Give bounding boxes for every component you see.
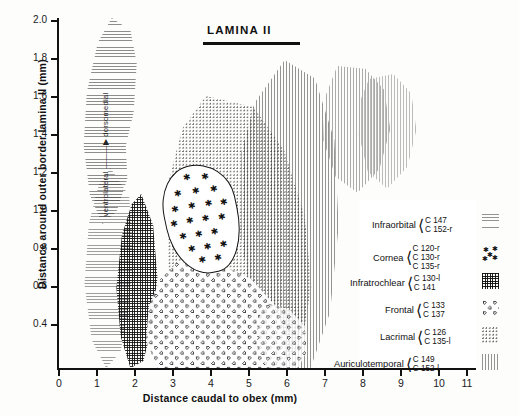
x-tick-label: 11 bbox=[455, 377, 479, 389]
brace-icon: ⟨ bbox=[418, 221, 424, 230]
legend-item-infraorbital[interactable]: Infraorbital ⟨ C 147 C 152-r bbox=[372, 216, 452, 234]
legend-codes: C 120-r C 130-r C 135-r bbox=[413, 244, 440, 272]
x-tick bbox=[286, 370, 288, 376]
star-marker: ✱ bbox=[482, 256, 488, 263]
x-tick-label: 6 bbox=[275, 377, 299, 389]
star-marker: ✱ bbox=[209, 184, 218, 194]
vlines-swatch bbox=[482, 354, 499, 370]
star-marker: ✱ bbox=[187, 244, 196, 254]
x-tick bbox=[172, 370, 174, 376]
legend-label: Infratrochlear bbox=[350, 278, 405, 288]
star-marker: ✱ bbox=[201, 214, 210, 224]
crosshatch-swatch bbox=[482, 273, 499, 289]
hlines-swatch bbox=[482, 214, 499, 230]
x-tick-label: 3 bbox=[161, 377, 185, 389]
y-tick bbox=[51, 324, 57, 326]
brace-icon: ⟨ bbox=[406, 360, 412, 369]
stars-swatch-grid: ✱ ✱ ✱ ✱ ✱ bbox=[482, 246, 499, 262]
star-marker: ✱ bbox=[171, 205, 180, 215]
x-tick bbox=[248, 370, 250, 376]
star-marker: ✱ bbox=[170, 219, 179, 229]
star-marker: ✱ bbox=[182, 173, 191, 183]
star-marker: ✱ bbox=[219, 239, 228, 249]
star-marker: ✱ bbox=[219, 197, 228, 207]
y-tick bbox=[51, 58, 57, 60]
x-tick bbox=[96, 370, 98, 376]
y-tick bbox=[51, 210, 57, 212]
lamina-ii-figure: Distance around outer border lamina II (… bbox=[0, 0, 519, 416]
x-tick-label: 2 bbox=[123, 377, 147, 389]
y-tick-label: 1.0 bbox=[17, 204, 47, 215]
x-tick bbox=[466, 370, 468, 376]
y-tick-label: 1.4 bbox=[17, 128, 47, 139]
brace-icon: ⟨ bbox=[406, 253, 412, 262]
legend-label: Lacrimal bbox=[380, 332, 415, 342]
legend-codes: C 147 C 152-r bbox=[425, 216, 452, 234]
legend-label: Infraorbital bbox=[372, 220, 416, 230]
brace-icon: ⟨ bbox=[407, 279, 413, 288]
legend-item-lacrimal[interactable]: Lacrimal ⟨ C 126 C 135-l bbox=[380, 328, 451, 346]
stars-swatch: ✱ ✱ ✱ ✱ ✱ bbox=[482, 246, 499, 262]
legend-codes: C 126 C 135-l bbox=[424, 328, 450, 346]
legend-label: Frontal bbox=[385, 305, 414, 315]
y-tick bbox=[51, 172, 57, 174]
x-tick-label: 9 bbox=[389, 377, 413, 389]
y-tick bbox=[51, 134, 57, 136]
x-tick-label: 7 bbox=[313, 377, 337, 389]
legend-codes: C 130-l C 141 bbox=[414, 274, 440, 292]
x-tick-label: 8 bbox=[351, 377, 375, 389]
star-marker: ✱ bbox=[492, 255, 498, 262]
star-marker: ✱ bbox=[203, 242, 212, 252]
star-marker: ✱ bbox=[191, 186, 200, 196]
legend-label: Auriculotemporal bbox=[334, 359, 404, 369]
y-tick-label: 1.2 bbox=[17, 166, 47, 177]
y-axis-line bbox=[57, 18, 59, 370]
star-marker: ✱ bbox=[194, 229, 203, 239]
x-tick bbox=[134, 370, 136, 376]
star-marker: ✱ bbox=[185, 216, 194, 226]
dots-swatch bbox=[482, 327, 499, 343]
legend-codes: C 133 C 137 bbox=[423, 301, 445, 319]
legend-label: Cornea bbox=[373, 253, 404, 263]
star-marker: ✱ bbox=[204, 199, 213, 209]
legend-item-auriculotemporal[interactable]: Auriculotemporal ⟨ C 149 C 152-l bbox=[334, 355, 439, 373]
star-marker: ✱ bbox=[178, 232, 187, 242]
x-tick-label: 1 bbox=[85, 377, 109, 389]
y-tick bbox=[51, 20, 57, 22]
x-tick-label: 10 bbox=[427, 377, 451, 389]
star-marker: ✱ bbox=[200, 172, 209, 182]
legend-item-cornea[interactable]: Cornea ⟨ C 120-r C 130-r C 135-r bbox=[373, 244, 440, 272]
y-tick-label: 0.6 bbox=[17, 280, 47, 291]
legend: Infraorbital ⟨ C 147 C 152-r Cornea ⟨ C … bbox=[356, 208, 519, 368]
brace-icon: ⟨ bbox=[416, 306, 422, 315]
x-axis-title: Distance caudal to obex (mm) bbox=[0, 392, 440, 404]
star-marker: ✱ bbox=[210, 227, 219, 237]
rings-swatch bbox=[482, 300, 499, 316]
star-marker: ✱ bbox=[214, 253, 223, 263]
legend-codes: C 149 C 152-l bbox=[413, 355, 439, 373]
y-tick-label: 2.0 bbox=[17, 14, 47, 25]
legend-item-frontal[interactable]: Frontal ⟨ C 133 C 137 bbox=[385, 301, 445, 319]
y-tick-label: 1.8 bbox=[17, 52, 47, 63]
y-tick bbox=[51, 286, 57, 288]
y-tick-label: 0.8 bbox=[17, 242, 47, 253]
brace-icon: ⟨ bbox=[417, 333, 423, 342]
y-tick bbox=[51, 96, 57, 98]
star-marker: ✱ bbox=[187, 201, 196, 211]
y-tick-label: 1.6 bbox=[17, 90, 47, 101]
x-tick-label: 4 bbox=[199, 377, 223, 389]
y-tick-label: 0.4 bbox=[17, 318, 47, 329]
x-tick-label: 5 bbox=[237, 377, 261, 389]
legend-item-infratrochlear[interactable]: Infratrochlear ⟨ C 130-l C 141 bbox=[350, 274, 440, 292]
star-marker: ✱ bbox=[217, 212, 226, 222]
x-tick bbox=[210, 370, 212, 376]
star-marker: ✱ bbox=[173, 189, 182, 199]
x-tick-label: 0 bbox=[47, 377, 71, 389]
x-tick bbox=[58, 370, 60, 376]
y-tick bbox=[51, 248, 57, 250]
star-marker: ✱ bbox=[198, 255, 207, 265]
x-tick bbox=[324, 370, 326, 376]
